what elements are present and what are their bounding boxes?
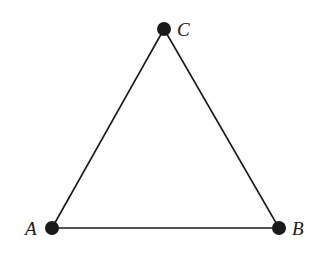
vertices [45, 22, 286, 235]
edge-b-c [164, 29, 279, 228]
label-b: B [292, 218, 304, 239]
edge-c-a [52, 29, 164, 228]
label-a: A [23, 218, 37, 239]
edges [52, 29, 279, 228]
vertex-c [157, 22, 171, 36]
vertex-b [272, 221, 286, 235]
label-c: C [177, 19, 190, 40]
vertex-a [45, 221, 59, 235]
triangle-diagram: A B C [0, 0, 323, 265]
